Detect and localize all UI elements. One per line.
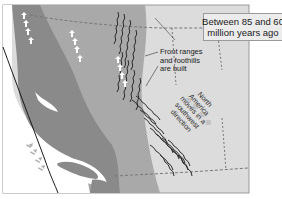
front-ranges-callout: Front ranges and foothills are built: [160, 48, 220, 74]
geologic-map: Between 85 and 60 million years ago Fron…: [0, 0, 282, 199]
map-title-box: Between 85 and 60 million years ago: [203, 13, 282, 41]
callout-line-3: are built: [160, 65, 220, 74]
title-line-2: million years ago: [207, 27, 278, 38]
title-line-1: Between 85 and 60: [202, 16, 282, 27]
